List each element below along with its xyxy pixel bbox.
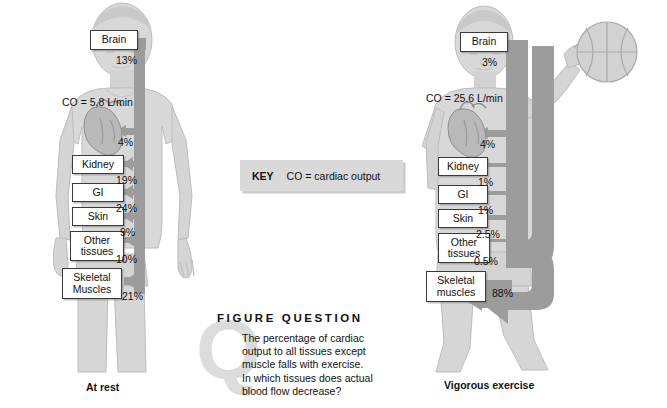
body-silhouette-vigorous-exercise (408, 0, 667, 408)
tissue-box-skeletal-muscles-at-rest: Skeletal Muscles (62, 268, 122, 299)
pct-brain-vigorous-exercise: 3% (482, 56, 497, 68)
tissue-box-skeletal-muscles-vigorous-exercise: Skeletal muscles (426, 271, 486, 302)
pct-gi-vigorous-exercise: 1% (478, 204, 493, 216)
pct-kidney-vigorous-exercise: 1% (478, 176, 493, 188)
co-label-vigorous-exercise: CO = 25.6 L/min (426, 92, 503, 104)
key-box: KEY CO = cardiac output (240, 160, 403, 191)
pct-other-tissues-at-rest: 10% (116, 253, 137, 265)
caption-vigorous-exercise: Vigorous exercise (444, 379, 534, 391)
co-label-at-rest: CO = 5.8 L/min (62, 96, 133, 108)
figure-question-heading: FIGURE QUESTION (217, 312, 363, 324)
figure-question-line: The percentage of cardiac (242, 332, 408, 345)
pct-kidney-at-rest: 19% (116, 174, 137, 186)
tissue-box-kidney-vigorous-exercise: Kidney (438, 157, 488, 176)
figure-question-line: In which tissues does actual (242, 372, 408, 385)
tissue-label-line2: tissues (81, 246, 114, 258)
tissue-label: Kidney (82, 159, 114, 171)
pct-gi-at-rest: 24% (116, 202, 137, 214)
pct-heart-vigorous-exercise: 4% (480, 138, 495, 150)
pct-other-tissues-vigorous-exercise: 0.5% (474, 255, 498, 267)
tissue-label: Brain (102, 34, 127, 46)
panel-vigorous-exercise: CO = 25.6 L/min Brain 3% 4% Kidney 1% GI… (408, 0, 667, 408)
tissue-label: GI (92, 187, 103, 199)
tissue-label-line2: Muscles (73, 284, 112, 296)
tissue-label-line1: Skeletal (437, 275, 474, 287)
tissue-label: Brain (472, 36, 497, 48)
tissue-label: Kidney (447, 161, 479, 173)
figure-question-body: The percentage of cardiac output to all … (242, 332, 408, 398)
tissue-box-kidney-at-rest: Kidney (72, 155, 124, 174)
figure-question-line: muscle falls with exercise. (242, 358, 408, 371)
pct-skeletal-muscles-at-rest: 21% (122, 290, 143, 302)
key-label: KEY (252, 170, 274, 182)
pct-skeletal-muscles-vigorous-exercise: 88% (492, 287, 513, 299)
tissue-label-line1: Skeletal (73, 272, 110, 284)
figure-root: CO = 5.8 L/min Brain 13% 4% Kidney 19% G… (0, 0, 667, 408)
figure-question-line: blood flow decrease? (242, 385, 408, 398)
figure-question-line: output to all tissues except (242, 345, 408, 358)
tissue-label: Skin (88, 211, 108, 223)
caption-at-rest: At rest (86, 381, 119, 393)
tissue-box-brain-at-rest: Brain (90, 30, 138, 50)
tissue-label-line2: muscles (437, 287, 476, 299)
pct-skin-at-rest: 9% (120, 226, 135, 238)
pct-heart-at-rest: 4% (118, 136, 133, 148)
tissue-label: GI (457, 189, 468, 201)
pct-skin-vigorous-exercise: 2.5% (476, 228, 500, 240)
tissue-label: Skin (453, 213, 473, 225)
pct-brain-at-rest: 13% (116, 54, 137, 66)
key-text: CO = cardiac output (287, 170, 381, 182)
tissue-box-brain-vigorous-exercise: Brain (460, 32, 508, 52)
figure-question-block: Q FIGURE QUESTION The percentage of card… (196, 306, 411, 406)
